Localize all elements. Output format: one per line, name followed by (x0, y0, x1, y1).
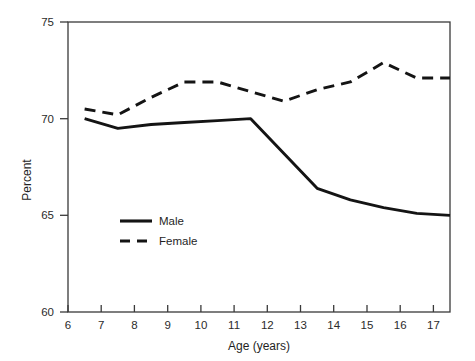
x-tick-label-14: 14 (327, 319, 340, 331)
x-tick-label-8: 8 (131, 319, 137, 331)
x-tick-label-15: 15 (361, 319, 374, 331)
y-tick-label-60: 60 (41, 306, 54, 318)
chart-legend: Male Female (120, 215, 197, 247)
x-tick-label-12: 12 (261, 319, 274, 331)
y-axis-ticks (60, 22, 68, 312)
x-tick-label-17: 17 (427, 319, 440, 331)
x-tick-label-7: 7 (98, 319, 104, 331)
x-axis-tick-labels: 6 7 8 9 10 11 12 13 14 15 16 17 (65, 319, 440, 331)
x-axis-ticks (68, 305, 433, 312)
y-tick-label-75: 75 (41, 16, 54, 28)
series-line-male (85, 119, 450, 216)
chart-canvas: 75 70 65 60 Percent 6 7 8 9 (0, 0, 475, 361)
y-axis-title: Percent (20, 159, 34, 201)
y-axis-tick-labels: 75 70 65 60 (41, 16, 54, 318)
y-tick-label-70: 70 (41, 113, 54, 125)
x-tick-label-13: 13 (294, 319, 307, 331)
legend-label-female: Female (159, 235, 197, 247)
x-axis-title: Age (years) (228, 339, 290, 353)
legend-label-male: Male (159, 215, 184, 227)
y-tick-label-65: 65 (41, 209, 54, 221)
series-line-female (85, 63, 450, 115)
x-tick-label-11: 11 (228, 319, 240, 331)
x-tick-label-10: 10 (195, 319, 208, 331)
line-chart: 75 70 65 60 Percent 6 7 8 9 (0, 0, 475, 361)
x-tick-label-16: 16 (394, 319, 407, 331)
x-tick-label-6: 6 (65, 319, 71, 331)
x-tick-label-9: 9 (164, 319, 170, 331)
